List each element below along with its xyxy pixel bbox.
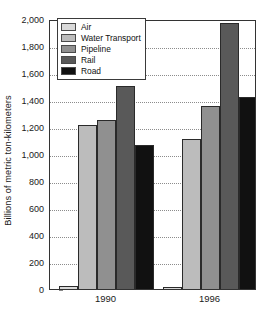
bar (239, 97, 256, 289)
bar (182, 139, 201, 289)
legend-swatch-icon (61, 45, 76, 53)
y-tick-label: 400 (14, 231, 44, 241)
y-tick-label: 1,800 (14, 42, 44, 52)
bar (97, 120, 116, 289)
legend-swatch-icon (61, 34, 76, 42)
y-tick-label: 200 (14, 258, 44, 268)
bar (59, 286, 78, 289)
bar (201, 106, 220, 289)
bar (220, 23, 239, 289)
bar (135, 145, 154, 289)
x-tick-label: 1990 (95, 293, 116, 304)
y-tick-label: 1,200 (14, 123, 44, 133)
y-tick-label: 2,000 (14, 15, 44, 25)
x-axis-tick-labels: 19901996 (49, 293, 256, 309)
y-tick-label: 1,400 (14, 96, 44, 106)
bar-group (163, 21, 256, 289)
bar (116, 86, 135, 289)
legend-item-label: Pipeline (81, 44, 111, 54)
y-tick-label: 800 (14, 177, 44, 187)
y-tick-label: 1,000 (14, 150, 44, 160)
y-tick-label: 600 (14, 204, 44, 214)
legend-swatch-icon (61, 56, 76, 64)
legend-item-label: Rail (81, 55, 95, 65)
y-tick-label: 0 (14, 285, 44, 295)
x-tick-label: 1996 (199, 293, 220, 304)
legend-item: Air (61, 21, 141, 32)
legend-item-label: Road (81, 66, 101, 76)
legend-item: Road (61, 65, 141, 76)
bar-chart-figure: Billions of metric ton-kilometers 020040… (0, 0, 270, 321)
legend-item: Rail (61, 54, 141, 65)
y-axis-tick-labels: 02004006008001,0001,2001,4001,6001,8002,… (14, 20, 44, 290)
legend-item-label: Water Transport (81, 33, 141, 43)
y-tick-label: 1,600 (14, 69, 44, 79)
bar (78, 125, 97, 289)
legend-swatch-icon (61, 67, 76, 75)
chart-legend: AirWater TransportPipelineRailRoad (57, 18, 146, 80)
legend-item: Pipeline (61, 43, 141, 54)
legend-item: Water Transport (61, 32, 141, 43)
legend-item-label: Air (81, 22, 91, 32)
bar (163, 287, 182, 289)
legend-swatch-icon (61, 23, 76, 31)
